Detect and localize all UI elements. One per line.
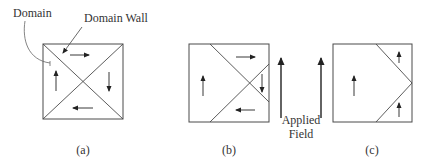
caption-c: (c) <box>365 144 378 156</box>
domain-leader-line <box>24 21 50 63</box>
applied-field-label-line2: Field <box>282 127 321 141</box>
panel-c <box>333 44 412 122</box>
caption-a: (a) <box>76 144 89 156</box>
domain-wall-chevron-lower <box>376 83 412 122</box>
caption-b: (b) <box>222 144 236 156</box>
applied-field-label-line1: Applied <box>282 113 321 127</box>
domain-wall-leader-line <box>63 27 82 53</box>
panel-a <box>24 21 123 119</box>
domain-label: Domain <box>13 7 52 19</box>
panel-c-boundary <box>333 44 412 122</box>
domain-diagram <box>0 0 423 165</box>
panel-b-boundary <box>189 44 269 122</box>
domain-wall-label: Domain Wall <box>84 12 148 24</box>
applied-field-arrows <box>281 58 321 118</box>
panel-b <box>189 44 269 122</box>
domain-wall-chevron-upper <box>376 44 412 83</box>
applied-field-label: Applied Field <box>282 113 321 141</box>
